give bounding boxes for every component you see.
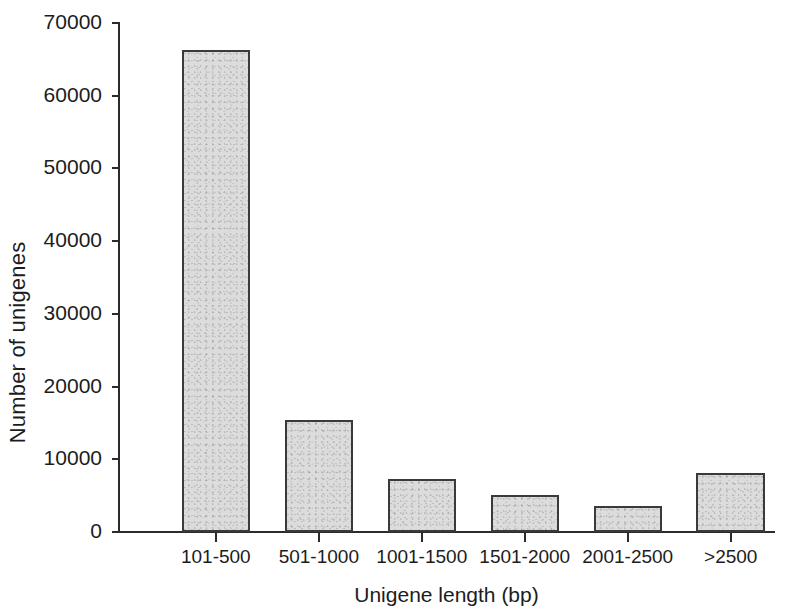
x-tick-label: 101-500 [181, 546, 251, 568]
y-tick-label: 50000 [44, 155, 102, 179]
y-tick-mark [112, 240, 120, 242]
y-tick-label: 30000 [44, 301, 102, 325]
y-axis-line [118, 23, 120, 533]
x-tick-mark [215, 533, 217, 542]
y-axis-title: Number of unigenes [0, 0, 36, 613]
y-tick-label: 20000 [44, 374, 102, 398]
x-tick-mark [421, 533, 423, 542]
y-tick-mark [112, 95, 120, 97]
y-tick-mark [112, 167, 120, 169]
x-tick-label: >2500 [704, 546, 757, 568]
y-tick-mark [112, 22, 120, 24]
bar [696, 473, 764, 532]
y-tick-mark [112, 458, 120, 460]
bar [388, 479, 456, 532]
x-tick-mark [318, 533, 320, 542]
x-tick-mark [730, 533, 732, 542]
y-tick-mark [112, 531, 120, 533]
x-tick-label: 501-1000 [279, 546, 359, 568]
x-tick-label: 2001-2500 [582, 546, 673, 568]
y-tick-label: 0 [90, 519, 102, 543]
x-tick-mark [627, 533, 629, 542]
x-tick-label: 1501-2000 [479, 546, 570, 568]
y-tick-label: 40000 [44, 228, 102, 252]
y-axis-title-label: Number of unigenes [5, 242, 31, 444]
y-tick-mark [112, 313, 120, 315]
y-tick-label: 10000 [44, 446, 102, 470]
y-tick-label: 70000 [44, 10, 102, 34]
y-tick-label: 60000 [44, 83, 102, 107]
x-tick-label: 1001-1500 [376, 546, 467, 568]
bar [182, 50, 250, 532]
y-tick-mark [112, 386, 120, 388]
bar-chart-figure: Number of unigenes 010000200003000040000… [0, 0, 786, 613]
x-axis-title: Unigene length (bp) [118, 583, 775, 607]
bar [491, 495, 559, 532]
bar [285, 420, 353, 532]
x-tick-mark [524, 533, 526, 542]
bar [594, 506, 662, 532]
